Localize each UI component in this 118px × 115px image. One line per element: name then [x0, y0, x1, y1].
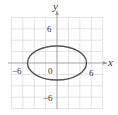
- ellipse-graph: y x 6 −6 −6 6 0: [0, 0, 118, 115]
- y-axis-label: y: [52, 0, 58, 12]
- x-axis-label: x: [107, 56, 113, 68]
- origin-label: 0: [48, 66, 53, 76]
- x-tick-neg6: −6: [12, 66, 22, 76]
- y-tick-neg6: −6: [43, 93, 53, 103]
- x-tick-6: 6: [89, 68, 94, 78]
- y-tick-6: 6: [47, 24, 52, 34]
